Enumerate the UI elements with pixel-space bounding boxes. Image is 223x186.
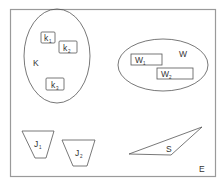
triangle-s: S xyxy=(129,127,202,155)
set-w: W W 1 W 2 xyxy=(118,39,208,91)
universe-label: E xyxy=(199,164,205,174)
trapezoid-j1-label: J xyxy=(34,139,38,149)
trapezoid-j2: J 2 xyxy=(62,140,95,166)
diagram-canvas: K k 1 k 2 k 3 W W 1 W 2 xyxy=(0,0,223,186)
element-w1: W 1 xyxy=(131,54,162,66)
set-k: K k 1 k 2 k 3 xyxy=(24,9,90,103)
trapezoid-j2-label: J xyxy=(75,148,79,158)
element-w2-label: W xyxy=(161,69,169,79)
element-w1-label: W xyxy=(135,55,143,65)
element-k1: k 1 xyxy=(41,32,55,44)
triangle-s-label: S xyxy=(166,144,172,154)
set-k-label: K xyxy=(33,58,39,68)
trapezoid-j1-subscript: 1 xyxy=(39,145,42,150)
element-w2: W 2 xyxy=(157,68,193,80)
element-k3: k 3 xyxy=(46,78,64,91)
trapezoid-j1: J 1 xyxy=(22,131,54,158)
set-w-label: W xyxy=(179,49,187,59)
trapezoid-j2-subscript: 2 xyxy=(80,154,83,159)
element-k2: k 2 xyxy=(59,41,77,54)
